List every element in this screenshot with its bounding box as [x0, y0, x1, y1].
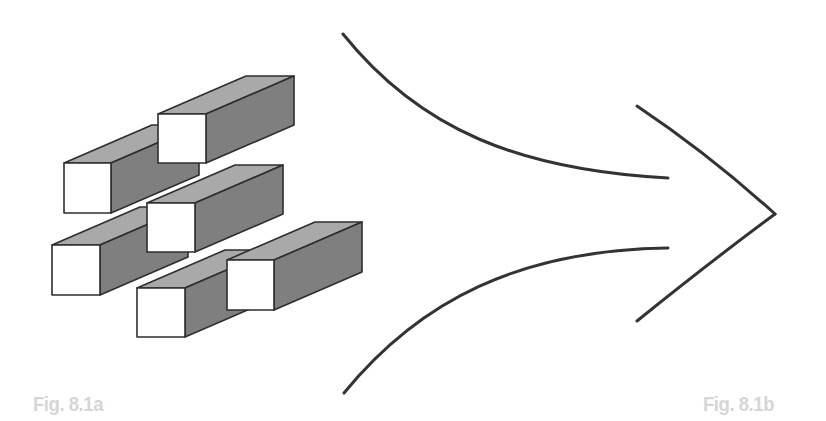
figure-canvas: Fig. 8.1a Fig. 8.1b	[0, 0, 826, 421]
arrowhead-bottom-stroke	[637, 214, 775, 321]
bar-front-face	[64, 163, 111, 213]
lower-converging-curve	[344, 248, 668, 393]
bar-top-right	[158, 76, 294, 163]
bar-front-face	[137, 288, 185, 337]
bar-front-face	[227, 260, 274, 310]
arrowhead-top-stroke	[637, 106, 775, 214]
figure-label-right: Fig. 8.1b	[703, 392, 774, 416]
converging-arrow-group	[343, 34, 775, 393]
figure-label-left: Fig. 8.1a	[33, 392, 103, 416]
bar-front-face	[147, 203, 195, 252]
bar-bottom-right	[227, 222, 362, 310]
bar-front-face	[52, 245, 100, 295]
upper-converging-curve	[343, 34, 668, 178]
bar-front-face	[158, 114, 206, 163]
parallel-bars-group	[52, 76, 362, 337]
diagram-svg	[0, 0, 826, 421]
